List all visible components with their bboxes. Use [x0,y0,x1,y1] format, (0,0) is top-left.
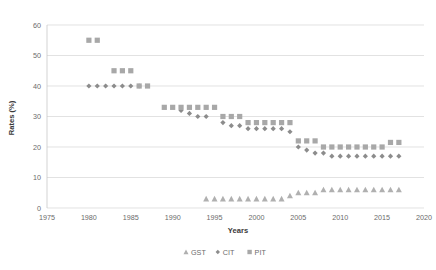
datapoint-gst [295,190,301,196]
datapoint-cit [120,83,125,88]
datapoint-gst [337,187,343,193]
datapoint-pit [321,144,326,149]
datapoint-cit [103,83,108,88]
datapoint-pit [287,120,292,125]
datapoint-pit [178,105,183,110]
datapoint-gst [312,190,318,196]
datapoint-pit [363,144,368,149]
datapoint-pit [237,114,242,119]
datapoint-cit [229,123,234,128]
legend-item-gst[interactable]: GST [183,248,206,257]
datapoint-pit [338,144,343,149]
datapoint-gst [387,187,393,193]
datapoint-cit [396,154,401,159]
x-axis-title: Years [228,226,248,235]
datapoint-gst [270,196,276,202]
x-tick-label: 2000 [248,213,264,222]
datapoint-pit [162,105,167,110]
datapoint-pit [95,38,100,43]
datapoint-cit [111,83,116,88]
datapoint-pit [137,83,142,88]
datapoint-cit [329,154,334,159]
datapoint-gst [237,196,243,202]
datapoint-gst [396,187,402,193]
legend-item-cit[interactable]: CIT [216,248,235,257]
datapoint-pit [304,138,309,143]
datapoint-cit [296,144,301,149]
y-tick-label: 20 [33,143,41,152]
datapoint-gst [287,193,293,199]
datapoint-pit [212,105,217,110]
datapoint-pit [187,105,192,110]
y-axis-tick-labels: 0102030405060 [33,21,41,213]
datapoint-pit [354,144,359,149]
series-cit [86,83,401,158]
datapoint-pit [245,120,250,125]
datapoint-gst [253,196,259,202]
x-tick-label: 2015 [374,213,390,222]
datapoint-gst [279,196,285,202]
rates-scatter-chart: 0102030405060 19751980198519901995200020… [0,0,436,270]
datapoint-gst [203,196,209,202]
legend-item-pit[interactable]: PIT [247,248,266,257]
datapoint-gst [220,196,226,202]
datapoint-pit [229,114,234,119]
datapoint-gst [329,187,335,193]
datapoint-pit [371,144,376,149]
datapoint-cit [354,154,359,159]
datapoint-pit [329,144,334,149]
datapoint-pit [388,140,393,145]
x-tick-label: 1990 [165,213,181,222]
y-tick-label: 50 [33,51,41,60]
datapoint-gst [371,187,377,193]
datapoint-cit [95,83,100,88]
datapoint-gst [320,187,326,193]
datapoint-pit [396,140,401,145]
series-pit [86,38,401,150]
datapoint-gst [379,187,385,193]
y-axis-title: Rates (%) [7,100,16,135]
legend-label-gst: GST [191,248,206,257]
chart-container: 0102030405060 19751980198519901995200020… [0,0,436,270]
datapoint-cit [279,126,284,131]
legend-label-pit: PIT [255,248,267,257]
x-tick-label: 2020 [416,213,432,222]
datapoint-pit [271,120,276,125]
datapoint-pit [346,144,351,149]
datapoint-pit [86,38,91,43]
gridlines [47,25,424,208]
y-tick-label: 60 [33,21,41,30]
datapoint-gst [346,187,352,193]
datapoint-pit [128,68,133,73]
datapoint-pit [195,105,200,110]
datapoint-cit [187,111,192,116]
datapoint-pit [220,114,225,119]
datapoint-gst [212,196,218,202]
datapoint-gst [228,196,234,202]
datapoint-cit [204,114,209,119]
chart-legend: GSTCITPIT [183,248,266,257]
diamond-icon [216,250,220,254]
datapoint-pit [145,83,150,88]
datapoint-cit [254,126,259,131]
datapoint-gst [245,196,251,202]
x-tick-label: 1985 [123,213,139,222]
datapoint-cit [312,151,317,156]
square-icon [247,250,251,254]
y-tick-label: 10 [33,173,41,182]
triangle-icon [183,249,188,254]
datapoint-pit [296,138,301,143]
x-tick-label: 1995 [207,213,223,222]
datapoint-cit [287,129,292,134]
datapoint-cit [86,83,91,88]
x-tick-label: 2010 [332,213,348,222]
y-tick-label: 40 [33,82,41,91]
x-tick-label: 1975 [39,213,55,222]
x-axis-tick-labels: 1975198019851990199520002005201020152020 [39,213,432,222]
datapoint-pit [262,120,267,125]
series-gst [203,187,402,202]
datapoint-cit [388,154,393,159]
datapoint-pit [111,68,116,73]
datapoint-pit [120,68,125,73]
datapoint-cit [371,154,376,159]
